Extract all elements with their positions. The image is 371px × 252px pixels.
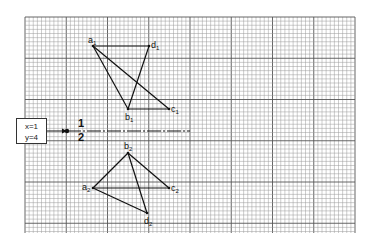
x-value: x=1 bbox=[17, 121, 46, 132]
region-label-1: 1 bbox=[78, 117, 84, 129]
vertex-c1 bbox=[168, 108, 171, 111]
region-label-2: 2 bbox=[78, 131, 84, 143]
figure-2-quadrilateral: b2a2c2d2 bbox=[82, 141, 180, 227]
vertex-b2 bbox=[127, 152, 130, 155]
vertex-c2 bbox=[168, 187, 171, 190]
vertex-label-c2: c2 bbox=[171, 183, 180, 194]
vertex-d1 bbox=[148, 45, 151, 48]
y-value: y=4 bbox=[17, 132, 46, 143]
vertex-d2 bbox=[146, 212, 149, 215]
vertex-label-d2: d2 bbox=[144, 216, 153, 227]
vertex-label-b1: b1 bbox=[125, 112, 134, 123]
vertex-a2 bbox=[92, 187, 95, 190]
vertex-label-b2: b2 bbox=[124, 141, 133, 152]
edge-b-a bbox=[93, 153, 128, 188]
divider-line: 1 2 bbox=[47, 117, 190, 143]
graph-paper-diagram: 1 2 a1d1b1c1 b2a2c2d2 bbox=[0, 0, 371, 252]
edge-b-d bbox=[128, 153, 147, 213]
vertex-label-a2: a2 bbox=[82, 182, 91, 193]
vertex-label-a1: a1 bbox=[88, 35, 97, 46]
grid bbox=[25, 17, 355, 233]
vertex-label-c1: c1 bbox=[171, 104, 180, 115]
vertex-b1 bbox=[127, 108, 130, 111]
coordinate-box: x=1 y=4 bbox=[16, 118, 47, 144]
